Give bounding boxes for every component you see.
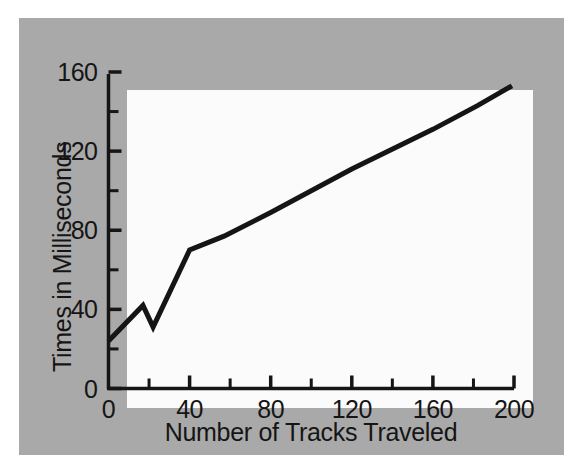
x-axis-title: Number of Tracks Traveled — [108, 418, 514, 447]
plot-area — [127, 90, 533, 408]
y-axis-title: Times in Milliseconds — [48, 142, 77, 372]
y-axis-tick-label: 0 — [84, 374, 97, 403]
y-axis-tick-label: 160 — [57, 58, 97, 87]
chart-panel — [19, 18, 564, 455]
figure-root: 04080120160 04080120160200 Times in Mill… — [0, 0, 583, 473]
